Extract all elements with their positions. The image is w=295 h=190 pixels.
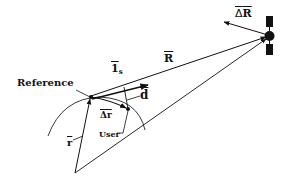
reference-point <box>89 95 93 99</box>
d-leader <box>127 96 140 100</box>
satellite-icon <box>265 16 275 55</box>
delta-R-letter: R <box>243 7 252 20</box>
user-point <box>126 107 130 111</box>
diagram-canvas: Reference R 1s d Δr User r ΔR <box>0 0 295 190</box>
unit-vector-label: 1s <box>111 63 123 75</box>
reference-label: Reference <box>17 78 74 88</box>
baseline-d-label: d <box>140 89 148 101</box>
delta-R-symbol: Δ <box>235 7 243 20</box>
delta-r-label: Δr <box>100 111 112 120</box>
delta-R-vector <box>224 22 268 35</box>
unit-vector-subscript: s <box>119 67 123 76</box>
position-r-label: r <box>67 138 72 148</box>
earth-surface-arc <box>48 97 145 136</box>
unit-vector-symbol: 1 <box>111 62 119 75</box>
range-vector-label: R <box>164 53 173 64</box>
delta-R-label: ΔR <box>235 8 252 19</box>
user-label: User <box>99 130 120 138</box>
